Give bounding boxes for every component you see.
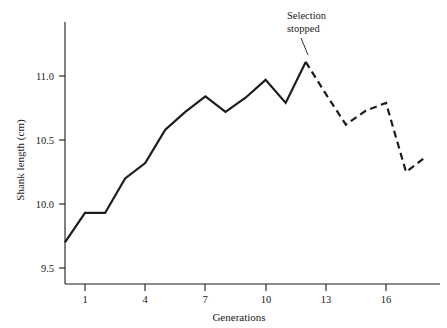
series-after-selection-stopped xyxy=(306,62,426,172)
x-tick-label-7: 7 xyxy=(202,294,207,305)
y-tick-label-11-0: 11.0 xyxy=(36,71,54,82)
x-axis-title: Generations xyxy=(212,311,265,323)
x-tick-label-4: 4 xyxy=(142,294,148,305)
y-axis-ticks xyxy=(59,76,65,268)
annotation-line-1: Selection xyxy=(287,10,327,21)
annotation-leader-line xyxy=(301,38,308,55)
y-tick-label-10-0: 10.0 xyxy=(36,199,54,210)
y-tick-label-9-5: 9.5 xyxy=(41,263,54,274)
chart-canvas: 11.0 10.5 10.0 9.5 1 4 7 10 13 16 Genera… xyxy=(0,0,447,328)
x-tick-label-1: 1 xyxy=(82,294,87,305)
x-axis-tick-labels: 1 4 7 10 13 16 xyxy=(82,294,391,305)
annotation-selection-stopped: Selection stopped xyxy=(287,10,327,55)
x-tick-label-10: 10 xyxy=(261,294,272,305)
series-selection-period xyxy=(65,62,306,242)
x-tick-label-13: 13 xyxy=(321,294,332,305)
y-tick-label-10-5: 10.5 xyxy=(36,135,54,146)
x-tick-label-16: 16 xyxy=(381,294,392,305)
x-axis-ticks xyxy=(85,284,386,291)
annotation-line-2: stopped xyxy=(287,23,320,34)
y-axis-title: Shank length (cm) xyxy=(14,119,27,201)
y-axis-tick-labels: 11.0 10.5 10.0 9.5 xyxy=(36,71,54,274)
chart-figure: 11.0 10.5 10.0 9.5 1 4 7 10 13 16 Genera… xyxy=(0,0,447,328)
